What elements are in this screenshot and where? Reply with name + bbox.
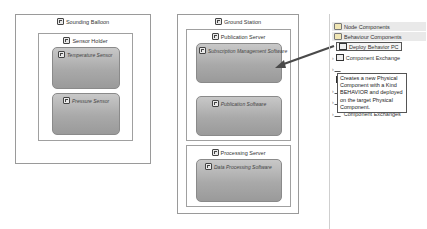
drawer-behaviour-components-label: Behaviour Components: [344, 34, 401, 40]
drawer-behaviour-components[interactable]: Behaviour Components: [332, 32, 426, 41]
tool-component-exchange[interactable]: ›Component Exchange: [332, 54, 400, 61]
tool-deploy-behavior-pc[interactable]: Deploy Behavior PC: [336, 42, 402, 51]
folder-icon: [334, 33, 342, 40]
tool-hidden-1[interactable]: ›: [332, 66, 344, 72]
tool-tooltip: Creates a new Physical Component with a …: [337, 73, 407, 113]
bullet: ›: [332, 55, 334, 61]
drawer-node-components-label: Node Components: [344, 24, 390, 30]
link-icon: [334, 66, 343, 72]
component-exchange-icon: [336, 54, 344, 61]
folder-icon: [334, 23, 342, 30]
component-exchange-label: Component Exchange: [346, 55, 400, 61]
deploy-pc-icon: [339, 43, 347, 50]
palette-panel: Node Components Behaviour Components Dep…: [329, 14, 427, 229]
drawer-node-components[interactable]: Node Components: [332, 22, 426, 31]
deploy-behavior-pc-label: Deploy Behavior PC: [349, 44, 399, 50]
